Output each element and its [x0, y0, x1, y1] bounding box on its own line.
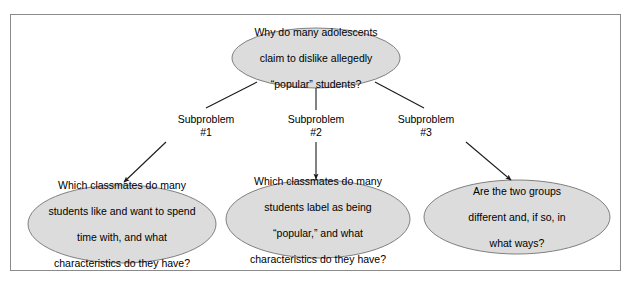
connector-root-to-subproblem-3	[375, 82, 424, 108]
connector-edge-1-to-subproblem-1	[124, 142, 166, 182]
subproblem-2-ellipse	[226, 180, 410, 258]
diagram-canvas: Why do many adolescents claim to dislike…	[0, 0, 631, 287]
root-question-ellipse	[232, 28, 400, 88]
subproblem-1-ellipse	[28, 185, 216, 263]
subproblem-3-ellipse	[424, 180, 610, 254]
diagram-vector-layer	[0, 0, 631, 287]
connector-root-to-subproblem-1	[206, 82, 257, 108]
connector-edge-3-to-subproblem-3	[466, 142, 511, 180]
